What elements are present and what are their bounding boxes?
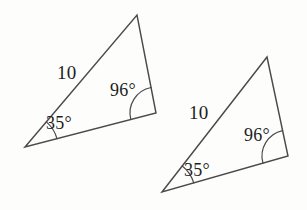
triangle-right-angle-96-label: 96°	[244, 126, 270, 144]
triangle-left-angle-96-label: 96°	[110, 81, 136, 99]
triangle-left	[25, 15, 156, 147]
geometry-figure: 10 35° 96° 10 35° 96°	[0, 0, 307, 210]
triangle-left-outline	[25, 15, 156, 147]
triangle-left-angle-35-label: 35°	[46, 114, 72, 132]
triangle-right-angle-35-label: 35°	[184, 161, 210, 179]
triangle-right-side-label: 10	[189, 103, 208, 122]
triangle-left-side-label: 10	[57, 63, 76, 82]
triangles-svg	[0, 0, 307, 210]
